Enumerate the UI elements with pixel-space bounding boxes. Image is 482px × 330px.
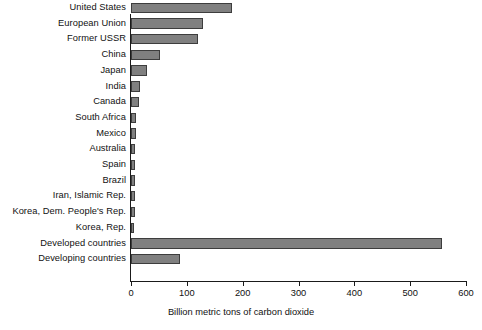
x-tick	[466, 282, 467, 286]
bar	[131, 34, 198, 44]
x-tick	[131, 282, 132, 286]
bar	[131, 254, 180, 264]
bar-row: Korea, Rep.	[0, 220, 482, 236]
bar	[131, 191, 135, 201]
bar	[131, 81, 140, 91]
bar-row: Former USSR	[0, 31, 482, 47]
bar	[131, 144, 135, 154]
x-tick	[299, 282, 300, 286]
bar-row: Australia	[0, 141, 482, 157]
bar	[131, 18, 203, 28]
bar-row: China	[0, 47, 482, 63]
category-label: Canada	[0, 94, 126, 110]
bar-row: Developing countries	[0, 251, 482, 267]
x-tick	[243, 282, 244, 286]
category-label: China	[0, 47, 126, 63]
bar	[131, 175, 135, 185]
category-label: Mexico	[0, 126, 126, 142]
x-axis-title: Billion metric tons of carbon dioxide	[0, 307, 482, 317]
x-tick	[410, 282, 411, 286]
category-label: European Union	[0, 16, 126, 32]
bar-row: Mexico	[0, 126, 482, 142]
bar-row: Japan	[0, 63, 482, 79]
x-tick	[187, 282, 188, 286]
bar-row: Korea, Dem. People's Rep.	[0, 204, 482, 220]
category-label: Australia	[0, 141, 126, 157]
category-label: India	[0, 79, 126, 95]
bar-row: European Union	[0, 16, 482, 32]
bar	[131, 238, 442, 248]
x-tick-label: 600	[443, 287, 482, 299]
category-label: Spain	[0, 157, 126, 173]
x-tick-label: 0	[108, 287, 154, 299]
bar-row: South Africa	[0, 110, 482, 126]
bar	[131, 97, 139, 107]
bar-row: Iran, Islamic Rep.	[0, 188, 482, 204]
category-label: Former USSR	[0, 31, 126, 47]
bar-row: Spain	[0, 157, 482, 173]
bar-chart: United StatesEuropean UnionFormer USSRCh…	[0, 0, 482, 330]
category-label: South Africa	[0, 110, 126, 126]
bar	[131, 223, 134, 233]
bar-rows: United StatesEuropean UnionFormer USSRCh…	[0, 0, 482, 267]
bar-row: Brazil	[0, 173, 482, 189]
category-label: Iran, Islamic Rep.	[0, 188, 126, 204]
bar	[131, 50, 160, 60]
x-tick-label: 100	[164, 287, 210, 299]
category-label: Brazil	[0, 173, 126, 189]
category-label: Korea, Rep.	[0, 220, 126, 236]
x-tick	[354, 282, 355, 286]
category-label: Korea, Dem. People's Rep.	[0, 204, 126, 220]
bar	[131, 65, 147, 75]
bar-row: United States	[0, 0, 482, 16]
bar	[131, 128, 136, 138]
x-tick-label: 200	[220, 287, 266, 299]
x-tick-label: 400	[331, 287, 377, 299]
x-tick-label: 300	[276, 287, 322, 299]
bar-row: Developed countries	[0, 236, 482, 252]
bar	[131, 3, 232, 13]
bar	[131, 207, 135, 217]
category-label: Developing countries	[0, 251, 126, 267]
bar-row: Canada	[0, 94, 482, 110]
category-label: Developed countries	[0, 236, 126, 252]
bar	[131, 113, 136, 123]
bar	[131, 160, 135, 170]
x-tick-label: 500	[387, 287, 433, 299]
category-label: United States	[0, 0, 126, 16]
category-label: Japan	[0, 63, 126, 79]
bar-row: India	[0, 79, 482, 95]
